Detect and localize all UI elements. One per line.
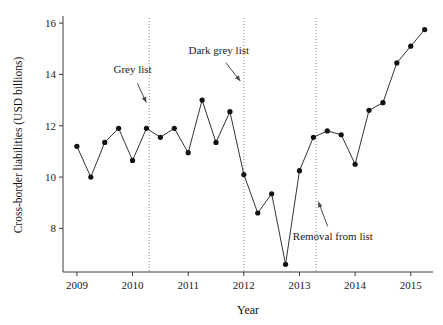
- data-point-21: [366, 108, 371, 113]
- data-point-12: [241, 172, 246, 177]
- data-point-20: [353, 162, 358, 167]
- data-point-13: [255, 210, 260, 215]
- y-tick-label-2: 12: [45, 120, 56, 132]
- y-tick-label-3: 14: [45, 68, 57, 80]
- data-point-14: [269, 191, 274, 196]
- y-tick-label-4: 16: [45, 17, 57, 29]
- event-vertical-lines: [149, 18, 316, 272]
- chart-figure: Grey listDark grey listRemoval from list…: [0, 0, 443, 325]
- annotation-label-2: Removal from list: [293, 230, 373, 242]
- x-tick-label-4: 2013: [288, 279, 311, 291]
- data-point-9: [200, 98, 205, 103]
- data-point-18: [325, 128, 330, 133]
- data-point-3: [116, 126, 121, 131]
- annotation-label-1: Dark grey list: [189, 44, 249, 56]
- annotation-label-0: Grey list: [113, 63, 151, 75]
- data-point-11: [227, 109, 232, 114]
- data-point-23: [394, 60, 399, 65]
- data-point-19: [339, 132, 344, 137]
- data-point-22: [380, 100, 385, 105]
- data-point-4: [130, 158, 135, 163]
- data-point-2: [102, 140, 107, 145]
- x-tick-label-3: 2012: [233, 279, 255, 291]
- y-axis-title: Cross-border liabilities (USD billions): [12, 57, 25, 234]
- x-tick-label-5: 2014: [344, 279, 367, 291]
- y-tick-label-1: 10: [45, 171, 57, 183]
- y-tick-label-0: 8: [51, 222, 57, 234]
- annotation-arrowhead-2: [318, 202, 322, 208]
- x-tick-label-0: 2009: [66, 279, 89, 291]
- x-tick-label-1: 2010: [122, 279, 145, 291]
- data-point-25: [422, 27, 427, 32]
- data-point-17: [311, 135, 316, 140]
- data-point-24: [408, 44, 413, 49]
- data-point-10: [213, 140, 218, 145]
- data-point-0: [74, 144, 79, 149]
- data-point-6: [158, 135, 163, 140]
- line-chart-canvas: Grey listDark grey listRemoval from list…: [0, 0, 443, 325]
- x-tick-label-6: 2015: [400, 279, 423, 291]
- x-axis-title: Year: [237, 303, 259, 317]
- data-point-8: [186, 150, 191, 155]
- x-tick-label-2: 2011: [177, 279, 199, 291]
- data-point-1: [88, 174, 93, 179]
- data-point-7: [172, 126, 177, 131]
- data-point-16: [297, 168, 302, 173]
- chart-annotations: Grey listDark grey listRemoval from list: [113, 44, 372, 242]
- data-point-15: [283, 262, 288, 267]
- data-point-5: [144, 126, 149, 131]
